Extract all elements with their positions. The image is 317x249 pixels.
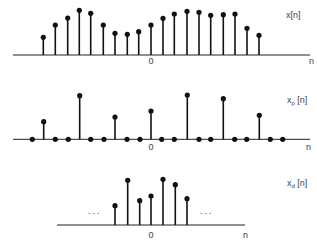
sample-dot: [184, 9, 189, 14]
origin-label: 0: [148, 142, 153, 152]
signal-diagram: x[n]n0 xp [n]n0 xd [n]n0......: [0, 0, 317, 249]
ellipsis: ...: [200, 206, 214, 216]
sample-dot: [196, 10, 201, 15]
zero-sample-dot: [208, 137, 213, 142]
zero-sample-dot: [268, 137, 273, 142]
sample-dot: [41, 119, 46, 124]
ellipsis: ...: [88, 206, 102, 216]
zero-sample-dot: [53, 137, 58, 142]
zero-sample-dot: [66, 137, 71, 142]
sample-dot: [137, 198, 142, 203]
sample-dot: [160, 16, 165, 21]
sample-dot: [41, 35, 46, 40]
sample-dot: [221, 12, 226, 17]
signal-label: xd [n]: [287, 178, 307, 189]
zero-sample-dot: [137, 137, 142, 142]
panel-xd-decimated-signal: xd [n]n0......: [57, 177, 307, 240]
zero-sample-dot: [124, 137, 129, 142]
sample-dot: [148, 22, 153, 27]
sample-dot: [184, 196, 189, 201]
sample-dot: [232, 11, 237, 16]
axis-label-n: n: [306, 142, 311, 152]
sample-dot: [112, 31, 117, 36]
axis-label-n: n: [309, 56, 314, 66]
zero-sample-dot: [280, 137, 285, 142]
zero-sample-dot: [88, 137, 93, 142]
sample-dot: [65, 15, 70, 20]
sample-dot: [125, 32, 130, 37]
sample-dot: [160, 177, 165, 182]
sample-dot: [148, 108, 153, 113]
panel-xp-sampled-signal: xp [n]n0: [13, 92, 311, 152]
sample-dot: [77, 8, 82, 13]
zero-sample-dot: [172, 137, 177, 142]
zero-sample-dot: [30, 137, 35, 142]
sample-dot: [125, 178, 130, 183]
sample-dot: [77, 93, 82, 98]
sample-dot: [136, 29, 141, 34]
origin-label: 0: [148, 230, 153, 240]
sample-dot: [53, 22, 58, 27]
sample-dot: [221, 96, 226, 101]
zero-sample-dot: [244, 137, 249, 142]
zero-sample-dot: [232, 137, 237, 142]
zero-sample-dot: [101, 137, 106, 142]
panel-x-signal: x[n]n0: [13, 8, 314, 66]
signal-label: xp [n]: [287, 95, 307, 106]
sample-dot: [185, 92, 190, 97]
sample-dot: [173, 182, 178, 187]
sample-dot: [112, 203, 117, 208]
sample-dot: [148, 193, 153, 198]
sample-dot: [244, 26, 249, 31]
axis-label-n: n: [243, 230, 248, 240]
sample-dot: [112, 114, 117, 119]
sample-dot: [101, 22, 106, 27]
origin-label: 0: [148, 56, 153, 66]
sample-dot: [257, 113, 262, 118]
signal-label: x[n]: [286, 10, 301, 20]
zero-sample-dot: [196, 137, 201, 142]
zero-sample-dot: [159, 137, 164, 142]
sample-dot: [172, 11, 177, 16]
sample-dot: [256, 33, 261, 38]
sample-dot: [208, 13, 213, 18]
sample-dot: [88, 11, 93, 16]
